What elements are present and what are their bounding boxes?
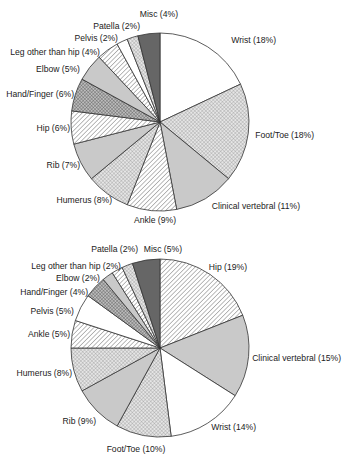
slice-label: Clinical vertebral (11%) <box>212 201 300 211</box>
slice-label: Hip (19%) <box>209 262 247 272</box>
slice-label: Foot/Toe (18%) <box>255 130 314 140</box>
slice-label: Elbow (5%) <box>36 64 80 74</box>
slice-label: Rib (7%) <box>47 160 81 170</box>
pie-chart-2: Hip (19%)Clinical vertebral (15%)Wrist (… <box>17 244 342 454</box>
slice-label: Ankle (5%) <box>28 329 70 339</box>
slice-label: Rib (9%) <box>63 416 97 426</box>
slice-label: Humerus (8%) <box>57 195 113 205</box>
slice-label: Misc (5%) <box>144 244 182 254</box>
slice-label: Wrist (14%) <box>211 422 256 432</box>
slice-label: Misc (4%) <box>140 9 178 19</box>
slice-label: Leg other than hip (2%) <box>31 261 121 271</box>
slice-label: Clinical vertebral (15%) <box>252 353 341 363</box>
slice-label: Patella (2%) <box>91 244 138 254</box>
slice-label: Pelvis (5%) <box>31 306 75 316</box>
slice-label: Ankle (9%) <box>134 215 176 225</box>
slice-label: Hip (6%) <box>37 123 71 133</box>
slice-label: Foot/Toe (10%) <box>107 444 166 454</box>
slice-label: Hand/Finger (6%) <box>6 89 74 99</box>
slice-label: Patella (2%) <box>93 21 140 31</box>
slice-label: Leg other than hip (4%) <box>10 47 100 57</box>
pie-charts: Wrist (18%)Foot/Toe (18%)Clinical verteb… <box>0 0 346 462</box>
slice-label: Elbow (2%) <box>56 273 100 283</box>
slice-label: Wrist (18%) <box>231 35 276 45</box>
slice-label: Hand/Finger (4%) <box>20 287 88 297</box>
slice-label: Humerus (8%) <box>17 368 73 378</box>
pie-chart-1: Wrist (18%)Foot/Toe (18%)Clinical verteb… <box>6 9 314 225</box>
slice-label: Pelvis (2%) <box>75 33 119 43</box>
